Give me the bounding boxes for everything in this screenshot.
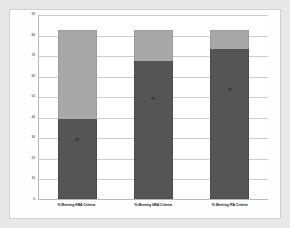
- y-axis-tick-label: 80: [31, 34, 35, 37]
- bar-segment-dark[interactable]: 73: [210, 49, 249, 199]
- y-axis-tick-label: 10: [31, 178, 35, 181]
- bar-segment-light[interactable]: [134, 30, 173, 61]
- bar-column[interactable]: 73: [210, 15, 249, 199]
- chart-card: 9080706050403020100 396773 % Meeting KBA…: [9, 9, 281, 219]
- y-axis-tick-label: 20: [31, 157, 35, 160]
- chart-page: 9080706050403020100 396773 % Meeting KBA…: [0, 0, 290, 228]
- y-axis-tick-label: 60: [31, 75, 35, 78]
- x-axis-category-label: % Meeting IPA Criteria: [192, 204, 268, 208]
- bar-column[interactable]: 67: [134, 15, 173, 199]
- x-axis-category-labels: % Meeting KBA Criteria% Meeting SBA Crit…: [38, 204, 268, 216]
- bar-value-label: 67: [151, 98, 155, 102]
- bar-value-label: 73: [228, 89, 232, 93]
- bar-segment-light[interactable]: [210, 30, 249, 49]
- bar-value-label: 39: [75, 139, 79, 143]
- gridline: [39, 199, 268, 200]
- bar-column[interactable]: 39: [58, 15, 97, 199]
- plot-area: 396773: [38, 15, 268, 200]
- x-axis-category-label: % Meeting KBA Criteria: [38, 204, 114, 208]
- bar-series-group: 396773: [39, 15, 268, 199]
- y-axis: 9080706050403020100: [20, 15, 38, 200]
- y-axis-tick-label: 50: [31, 96, 35, 99]
- y-axis-tick-label: 90: [31, 13, 35, 16]
- bar-segment-dark[interactable]: 67: [134, 61, 173, 199]
- x-axis-category-label: % Meeting SBA Criteria: [115, 204, 191, 208]
- plot-wrapper: 9080706050403020100 396773 % Meeting KBA…: [20, 15, 272, 215]
- bar-segment-dark[interactable]: 39: [58, 119, 97, 199]
- y-axis-tick-label: 40: [31, 116, 35, 119]
- y-axis-tick-label: 70: [31, 54, 35, 57]
- bar-segment-light[interactable]: [58, 30, 97, 118]
- y-axis-tick-label: 30: [31, 137, 35, 140]
- y-axis-tick-label: 0: [33, 198, 35, 201]
